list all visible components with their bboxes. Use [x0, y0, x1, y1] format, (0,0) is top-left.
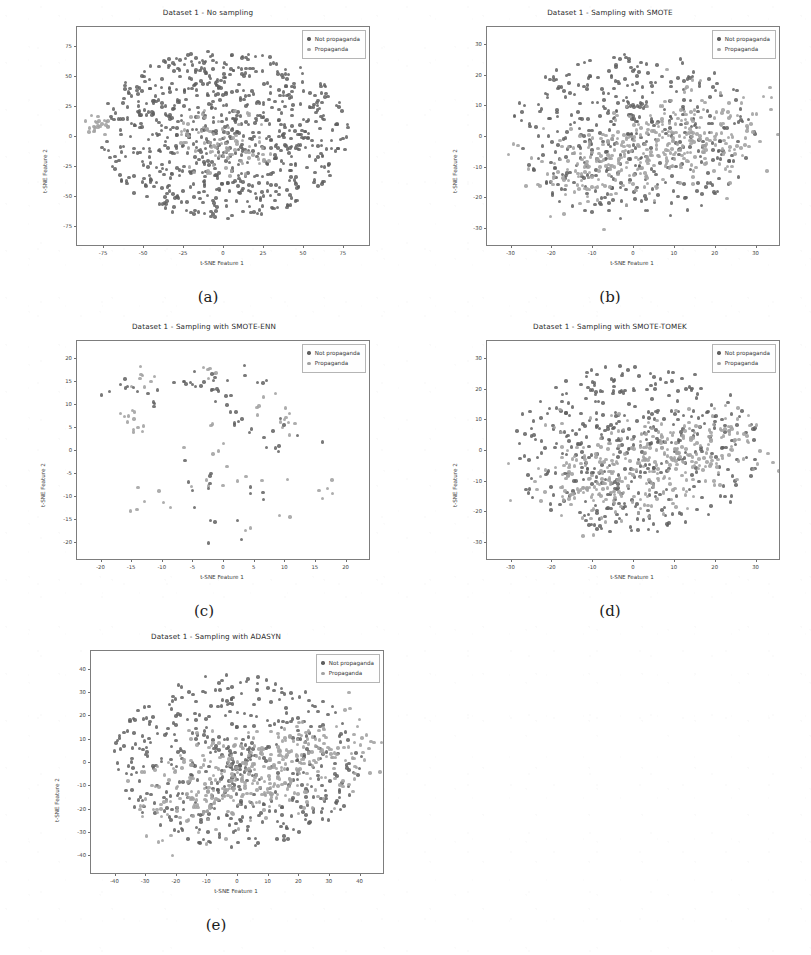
x-tick-mark [268, 874, 269, 876]
y-tick-mark [74, 106, 76, 107]
y-tick-mark [74, 46, 76, 47]
panel-d: Dataset 1 - Sampling with SMOTE-TOMEK No… [424, 322, 796, 597]
y-tick-mark [484, 389, 486, 390]
panel-a-xlabel: t-SNE Feature 1 [76, 260, 368, 266]
y-tick-label: -5 [50, 470, 72, 476]
x-tick-mark [192, 560, 193, 562]
figure-grid: Dataset 1 - No sampling Not propaganda P… [0, 0, 811, 955]
x-tick-label: 10 [670, 250, 677, 256]
y-tick-label: 50 [50, 73, 72, 79]
y-tick-mark [88, 669, 90, 670]
legend-label-not-propaganda: Not propaganda [329, 658, 374, 668]
caption-c: (c) [18, 602, 390, 620]
x-tick-mark [183, 246, 184, 248]
x-tick-mark [223, 246, 224, 248]
legend-label-propaganda: Propaganda [315, 44, 348, 54]
x-tick-mark [633, 246, 634, 248]
y-tick-label: -20 [64, 806, 86, 812]
y-tick-label: -20 [460, 194, 482, 200]
y-tick-label: 30 [460, 41, 482, 47]
panel-a-plot-area[interactable]: Not propaganda Propaganda [76, 26, 370, 246]
panel-b-ylabel: t-SNE Feature 2 [452, 149, 458, 193]
legend-marker-not-propaganda [717, 351, 720, 354]
panel-c-plot-area[interactable]: Not propaganda Propaganda [76, 340, 370, 560]
y-tick-label: 20 [50, 355, 72, 361]
x-tick-mark [143, 246, 144, 248]
caption-b: (b) [424, 288, 796, 306]
legend-entry-not-propaganda: Not propaganda [307, 34, 360, 44]
panel-c-ylabel: t-SNE Feature 2 [40, 463, 46, 507]
y-tick-mark [74, 427, 76, 428]
x-tick-mark [101, 560, 102, 562]
y-tick-label: 20 [460, 72, 482, 78]
x-tick-label: -15 [127, 564, 136, 570]
panel-c: Dataset 1 - Sampling with SMOTE-ENN Not … [18, 322, 390, 597]
x-tick-label: -10 [202, 878, 211, 884]
y-tick-mark [88, 809, 90, 810]
x-tick-mark [346, 560, 347, 562]
legend-entry-not-propaganda: Not propaganda [307, 348, 360, 358]
y-tick-mark [74, 226, 76, 227]
x-tick-mark [715, 246, 716, 248]
x-tick-label: 15 [312, 564, 319, 570]
y-tick-mark [484, 75, 486, 76]
panel-d-title: Dataset 1 - Sampling with SMOTE-TOMEK [424, 322, 796, 331]
y-tick-mark [484, 419, 486, 420]
x-tick-label: -20 [96, 564, 105, 570]
panel-b: Dataset 1 - Sampling with SMOTE Not prop… [424, 8, 796, 283]
x-tick-mark [315, 560, 316, 562]
panel-a: Dataset 1 - No sampling Not propaganda P… [28, 8, 388, 283]
y-tick-label: -25 [50, 163, 72, 169]
x-tick-mark [592, 246, 593, 248]
y-tick-label: 30 [64, 689, 86, 695]
legend-entry-propaganda: Propaganda [307, 44, 360, 54]
panel-e-title: Dataset 1 - Sampling with ADASYN [30, 632, 402, 641]
x-tick-label: -5 [190, 564, 195, 570]
x-tick-mark [715, 560, 716, 562]
x-tick-mark [756, 246, 757, 248]
panel-a-scatter-points [77, 27, 369, 245]
x-tick-label: -25 [179, 250, 188, 256]
y-tick-mark [88, 785, 90, 786]
x-tick-mark [162, 560, 163, 562]
y-tick-label: -30 [460, 539, 482, 545]
y-tick-label: 20 [64, 712, 86, 718]
x-tick-mark [223, 560, 224, 562]
y-tick-label: -30 [460, 225, 482, 231]
y-tick-mark [74, 473, 76, 474]
legend-entry-propaganda: Propaganda [717, 358, 770, 368]
legend-entry-propaganda: Propaganda [321, 668, 374, 678]
y-tick-label: -10 [50, 493, 72, 499]
x-tick-label: -10 [157, 564, 166, 570]
y-tick-mark [74, 381, 76, 382]
x-tick-mark [131, 560, 132, 562]
panel-a-ylabel: t-SNE Feature 2 [42, 149, 48, 193]
y-tick-label: -15 [50, 516, 72, 522]
x-tick-mark [237, 874, 238, 876]
x-tick-mark [176, 874, 177, 876]
panel-b-plot-area[interactable]: Not propaganda Propaganda [486, 26, 780, 246]
legend-label-not-propaganda: Not propaganda [725, 34, 770, 44]
x-tick-label: 0 [631, 250, 634, 256]
y-tick-mark [88, 855, 90, 856]
x-tick-mark [633, 560, 634, 562]
legend-entry-propaganda: Propaganda [717, 44, 770, 54]
panel-e-scatter-points [91, 651, 383, 873]
x-tick-mark [284, 560, 285, 562]
y-tick-mark [484, 542, 486, 543]
panel-e-plot-area[interactable]: Not propaganda Propaganda [90, 650, 384, 874]
panel-d-plot-area[interactable]: Not propaganda Propaganda [486, 340, 780, 560]
panel-c-title: Dataset 1 - Sampling with SMOTE-ENN [18, 322, 390, 331]
legend-label-propaganda: Propaganda [315, 358, 348, 368]
x-tick-mark [115, 874, 116, 876]
y-tick-label: 0 [460, 447, 482, 453]
y-tick-mark [484, 44, 486, 45]
y-tick-mark [88, 739, 90, 740]
y-tick-mark [74, 404, 76, 405]
x-tick-label: 20 [711, 564, 718, 570]
panel-a-title: Dataset 1 - No sampling [28, 8, 388, 17]
x-tick-mark [511, 246, 512, 248]
caption-a: (a) [28, 288, 388, 306]
y-tick-label: 30 [460, 355, 482, 361]
y-tick-mark [74, 358, 76, 359]
